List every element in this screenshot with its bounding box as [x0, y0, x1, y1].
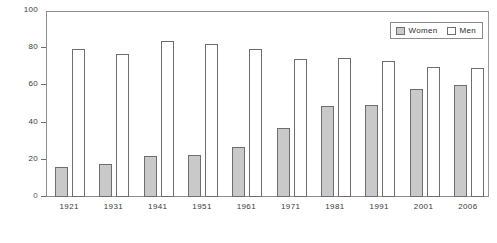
bar-men-2001 — [427, 67, 440, 197]
bar-group — [232, 11, 262, 197]
bar-women-1951 — [188, 155, 201, 197]
bar-women-1931 — [99, 164, 112, 197]
bar-men-1921 — [72, 49, 85, 197]
x-axis-label: 1961 — [226, 202, 266, 212]
bar-men-1931 — [116, 54, 129, 197]
bar-women-2001 — [410, 89, 423, 197]
x-axis: 1921193119411951196119711981199120012006 — [46, 199, 489, 219]
bar-group — [188, 11, 218, 197]
bar-women-1991 — [365, 105, 378, 197]
bar-chart: 020406080100 192119311941195119611971198… — [0, 0, 497, 243]
x-axis-label: 2001 — [404, 202, 444, 212]
bar-men-1981 — [338, 58, 351, 198]
y-axis-tick-label: 80 — [29, 42, 39, 51]
legend-swatch-women-icon — [396, 27, 405, 35]
bar-women-1961 — [232, 147, 245, 197]
bar-men-2006 — [471, 68, 484, 197]
bar-women-1981 — [321, 106, 334, 197]
x-axis-label: 1931 — [93, 202, 133, 212]
legend-label-women: Women — [409, 26, 438, 35]
bar-group — [55, 11, 85, 197]
bar-men-1991 — [382, 61, 395, 197]
x-axis-label: 1991 — [359, 202, 399, 212]
y-axis-tick-label: 0 — [33, 191, 38, 200]
bar-group — [277, 11, 307, 197]
legend-item-women: Women — [396, 26, 438, 35]
x-axis-label: 2006 — [448, 202, 488, 212]
bar-men-1971 — [294, 59, 307, 197]
y-axis-tick-label: 100 — [24, 5, 38, 14]
bar-women-1921 — [55, 167, 68, 197]
x-axis-label: 1951 — [182, 202, 222, 212]
x-axis-label: 1971 — [271, 202, 311, 212]
x-axis-label: 1921 — [49, 202, 89, 212]
x-axis-label: 1981 — [315, 202, 355, 212]
y-axis-tick-label: 20 — [29, 154, 39, 163]
bar-men-1961 — [249, 49, 262, 197]
y-axis-tick-label: 40 — [29, 117, 39, 126]
y-axis: 020406080100 — [0, 0, 46, 243]
bar-group — [99, 11, 129, 197]
y-axis-tick-label: 60 — [29, 79, 39, 88]
bar-group — [144, 11, 174, 197]
x-axis-label: 1941 — [138, 202, 178, 212]
bar-women-1971 — [277, 128, 290, 197]
legend-swatch-men-icon — [447, 27, 456, 35]
chart-legend: Women Men — [390, 22, 483, 39]
legend-label-men: Men — [460, 26, 476, 35]
bar-men-1941 — [161, 41, 174, 197]
bar-men-1951 — [205, 44, 218, 197]
legend-item-men: Men — [447, 26, 476, 35]
bar-women-2006 — [454, 85, 467, 197]
bar-women-1941 — [144, 156, 157, 197]
bar-group — [321, 11, 351, 197]
